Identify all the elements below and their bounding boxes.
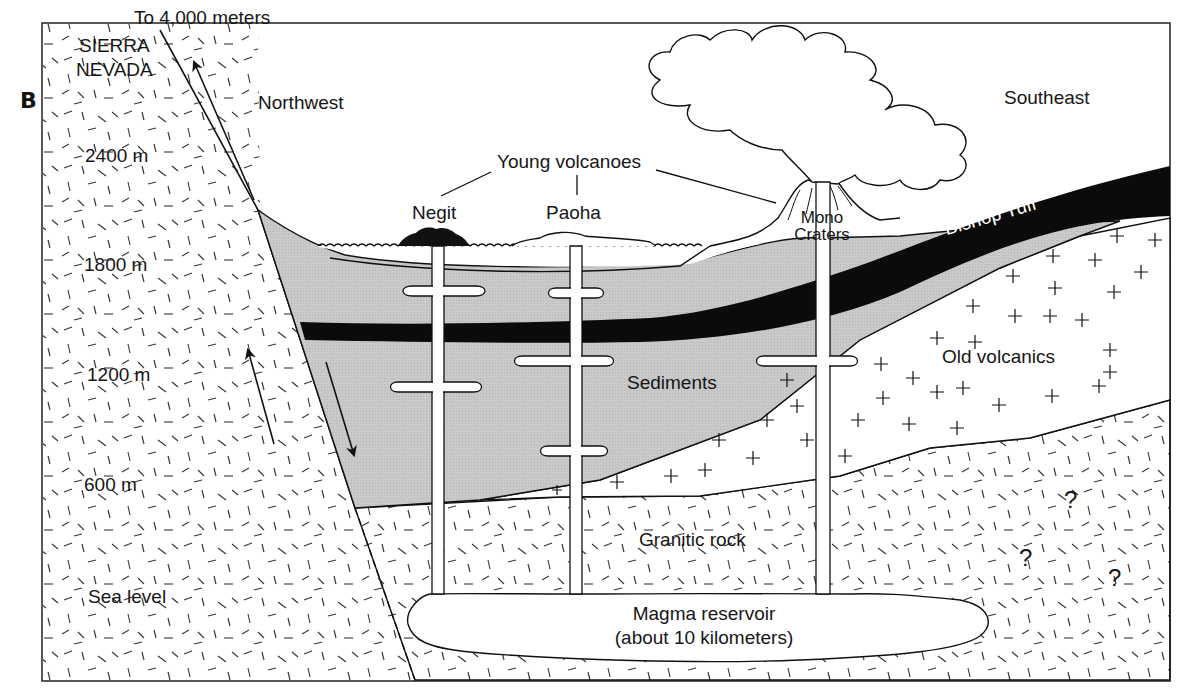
unknown-marker-2: ? xyxy=(1019,546,1032,570)
elevation-tick-2400: 2400 m xyxy=(85,146,148,165)
elevation-tick-sea-level: Sea level xyxy=(88,587,166,606)
unknown-marker-3: ? xyxy=(1108,566,1121,590)
sediments-label: Sediments xyxy=(627,373,717,392)
range-label-line1: SIERRA xyxy=(79,36,150,55)
mono-craters-label-line2: Craters xyxy=(794,226,850,243)
paoha-label: Paoha xyxy=(546,203,601,222)
magma-reservoir-label: Magma reservoir xyxy=(633,604,776,623)
top-elevation-note: To 4,000 meters xyxy=(134,8,270,27)
mono-craters-label-line1: Mono xyxy=(801,209,844,226)
elevation-tick-1200: 1200 m xyxy=(87,365,150,384)
old-volcanics-label: Old volcanics xyxy=(942,347,1055,366)
young-volcanoes-label: Young volcanoes xyxy=(497,152,641,171)
direction-southeast: Southeast xyxy=(1004,88,1090,107)
elevation-tick-600: 600 m xyxy=(84,475,137,494)
granitic-rock-label: Granitic rock xyxy=(639,530,746,549)
negit-label: Negit xyxy=(412,203,456,222)
direction-northwest: Northwest xyxy=(258,93,344,112)
magma-reservoir-size: (about 10 kilometers) xyxy=(615,628,793,647)
panel-label: B xyxy=(20,88,37,113)
range-label-line2: NEVADA xyxy=(76,60,153,79)
elevation-tick-1800: 1800 m xyxy=(84,255,147,274)
unknown-marker-1: ? xyxy=(1064,488,1077,512)
